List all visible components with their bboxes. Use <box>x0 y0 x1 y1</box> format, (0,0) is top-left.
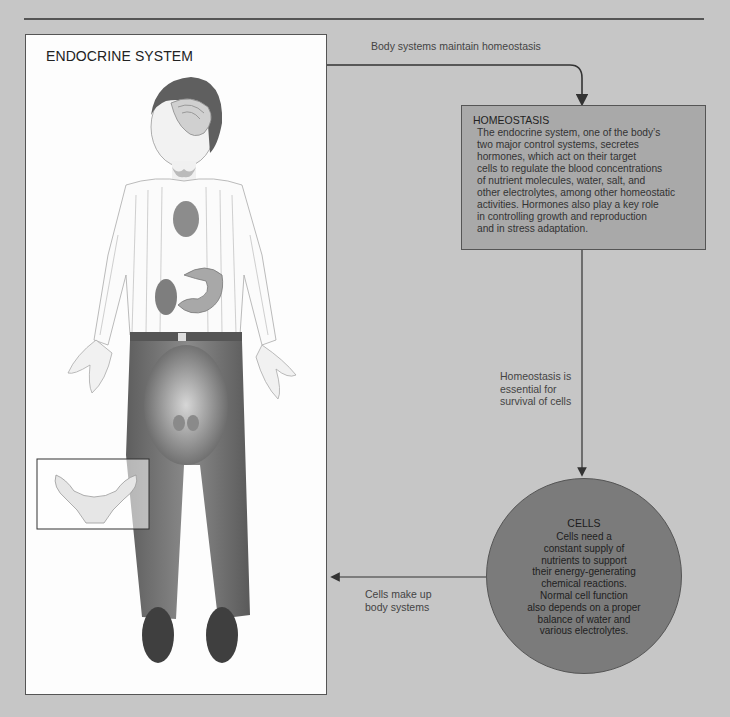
label-body-systems-maintain-homeostasis: Body systems maintain homeostasis <box>371 40 541 53</box>
homeostasis-text: The endocrine system, one of the body’s … <box>473 127 697 235</box>
cells-title: CELLS <box>487 517 681 529</box>
cells-text: Cells need a constant supply of nutrient… <box>487 531 681 637</box>
label-cells-make-up-body-systems: Cells make up body systems <box>365 588 432 613</box>
endocrine-system-panel: ENDOCRINE SYSTEM <box>25 34 327 695</box>
homeostasis-box: HOMEOSTASIS The endocrine system, one of… <box>461 105 706 250</box>
head <box>151 77 222 181</box>
homeostasis-title: HOMEOSTASIS <box>473 114 697 126</box>
top-rule <box>24 18 704 20</box>
inset-female-reproductive <box>37 459 149 529</box>
cells-circle: CELLS Cells need a constant supply of nu… <box>486 478 682 674</box>
human-figure-illustration <box>26 35 328 696</box>
label-homeostasis-essential: Homeostasis is essential for survival of… <box>500 370 571 408</box>
